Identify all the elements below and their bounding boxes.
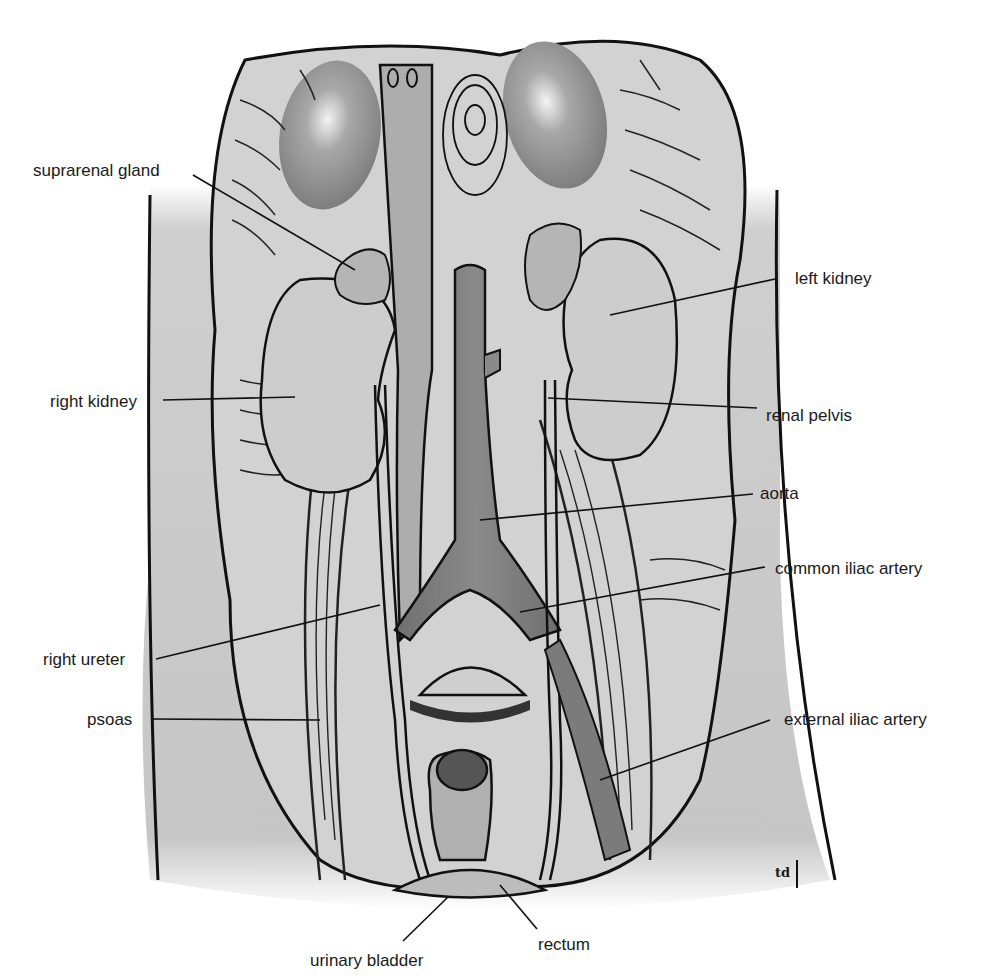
label-urinary-bladder: urinary bladder	[310, 952, 423, 969]
label-aorta: aorta	[760, 485, 799, 502]
label-right-ureter: right ureter	[43, 651, 125, 668]
signature-text: td	[775, 866, 790, 879]
anatomy-figure	[0, 0, 991, 980]
label-suprarenal-gland: suprarenal gland	[33, 162, 160, 179]
label-psoas: psoas	[87, 711, 132, 728]
label-rectum: rectum	[538, 936, 590, 953]
label-common-iliac-artery: common iliac artery	[775, 560, 922, 577]
label-right-kidney: right kidney	[50, 393, 137, 410]
label-left-kidney: left kidney	[795, 270, 872, 287]
label-renal-pelvis: renal pelvis	[766, 407, 852, 424]
label-external-iliac-artery: external iliac artery	[784, 711, 927, 728]
